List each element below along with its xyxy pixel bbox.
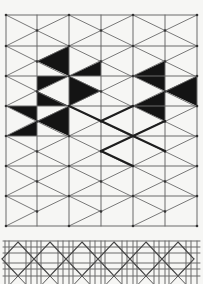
grid-node-dot — [68, 195, 71, 198]
grid-node-dot — [5, 75, 8, 78]
grid-node-dot — [196, 75, 199, 78]
grid-node-dot — [5, 14, 8, 17]
grid-node-dot — [68, 165, 71, 168]
grid-node-dot — [196, 14, 199, 17]
black-triangle — [37, 46, 69, 76]
grid-diagonal-line — [37, 31, 69, 47]
grid-node-dot — [68, 225, 71, 228]
grid-diagonal-line — [6, 136, 37, 152]
bold-outline-segment — [101, 136, 133, 151]
grid-diagonal-line — [69, 151, 101, 167]
grid-diagonal-line — [6, 46, 37, 62]
grid-diagonal-line — [133, 166, 165, 182]
grid-node-dot — [36, 29, 39, 32]
bold-outline-segment — [101, 106, 133, 121]
grid-node-dot — [100, 210, 103, 213]
black-triangle — [37, 106, 69, 136]
grid-node-dot — [100, 90, 103, 93]
grid-diagonal-line — [6, 91, 37, 107]
grid-node-dot — [100, 180, 103, 183]
grid-diagonal-line — [69, 136, 101, 152]
grid-diagonal-line — [69, 211, 101, 227]
grid-node-dot — [196, 135, 199, 138]
grid-diagonal-line — [101, 31, 133, 47]
grid-node-dot — [196, 165, 199, 168]
grid-node-dot — [196, 225, 199, 228]
grid-node-dot — [36, 60, 39, 63]
bold-outline-segment — [101, 151, 133, 166]
black-triangle — [69, 76, 101, 106]
grid-node-dot — [5, 105, 8, 108]
grid-node-dot — [5, 195, 8, 198]
grid-node-dot — [5, 165, 8, 168]
grid-diagonal-line — [101, 182, 133, 198]
grid-node-dot — [68, 75, 71, 78]
grid-diagonal-line — [165, 182, 197, 198]
grid-diagonal-line — [6, 15, 37, 31]
grid-diagonal-line — [133, 181, 165, 197]
grid-diagonal-line — [37, 196, 69, 212]
grid-node-dot — [5, 135, 8, 138]
grid-diagonal-line — [6, 151, 37, 167]
grid-node-dot — [100, 29, 103, 32]
grid-diagonal-line — [6, 181, 37, 197]
grid-node-dot — [5, 225, 8, 228]
grid-diagonal-line — [133, 196, 165, 212]
bold-outline-segment — [69, 106, 101, 121]
grid-diagonal-line — [69, 31, 101, 47]
grid-node-dot — [164, 180, 167, 183]
grid-diagonal-line — [133, 211, 165, 227]
grid-diagonal-line — [37, 15, 69, 31]
grid-diagonal-line — [37, 152, 69, 168]
grid-diagonal-line — [101, 92, 133, 108]
black-triangle — [165, 76, 197, 106]
grid-node-dot — [36, 150, 39, 153]
grid-node-dot — [36, 120, 39, 123]
grid-diagonal-line — [69, 166, 101, 182]
grid-diagonal-line — [6, 76, 37, 92]
grid-node-dot — [164, 60, 167, 63]
grid-diagonal-line — [165, 136, 197, 152]
grid-diagonal-line — [69, 121, 101, 137]
grid-node-dot — [36, 210, 39, 213]
grid-diagonal-line — [37, 136, 69, 152]
grid-node-dot — [164, 29, 167, 32]
grid-diagonal-line — [6, 211, 37, 227]
grid-diagonal-line — [6, 31, 37, 47]
grid-node-dot — [196, 195, 199, 198]
grid-diagonal-line — [133, 15, 165, 31]
grid-diagonal-line — [69, 196, 101, 212]
grid-node-dot — [5, 45, 8, 48]
grid-node-dot — [68, 45, 71, 48]
grid-node-dot — [100, 60, 103, 63]
grid-node-dot — [132, 195, 135, 198]
grid-diagonal-line — [37, 166, 69, 182]
grid-diagonal-line — [69, 15, 101, 31]
grid-node-dot — [132, 14, 135, 17]
triangle-grid-panel — [5, 14, 199, 228]
grid-node-dot — [36, 90, 39, 93]
grid-diagonal-line — [101, 196, 133, 212]
grid-diagonal-line — [101, 166, 133, 182]
grid-diagonal-line — [69, 46, 101, 62]
grid-diagonal-line — [165, 196, 197, 212]
grid-node-dot — [132, 75, 135, 78]
grid-diagonal-line — [165, 46, 197, 62]
grid-diagonal-line — [37, 182, 69, 198]
grid-node-dot — [164, 210, 167, 213]
grid-diagonal-line — [101, 15, 133, 31]
bold-outline-segment — [133, 136, 165, 151]
grid-diagonal-line — [133, 31, 165, 47]
grid-diagonal-line — [165, 62, 197, 78]
black-triangle — [37, 91, 69, 106]
diamond-strip-panel — [2, 241, 200, 284]
grid-diagonal-line — [133, 46, 165, 62]
grid-diagonal-line — [165, 106, 197, 122]
grid-node-dot — [68, 14, 71, 17]
grid-diagonal-line — [165, 122, 197, 138]
grid-node-dot — [132, 225, 135, 228]
grid-node-dot — [196, 45, 199, 48]
grid-node-dot — [132, 45, 135, 48]
grid-diagonal-line — [6, 196, 37, 212]
bold-outline-segment — [101, 121, 133, 136]
